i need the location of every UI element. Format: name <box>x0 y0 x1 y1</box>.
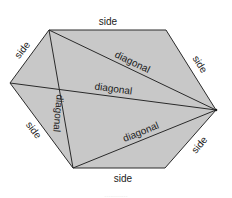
label-side-upper-right: side <box>190 53 209 75</box>
label-side-top: side <box>99 16 118 27</box>
figure-caption: ............ <box>104 191 127 198</box>
label-side-bottom: side <box>114 173 133 184</box>
vertex-dot-right <box>215 109 218 112</box>
hexagon-diagram: side side side side side side diagonal d… <box>0 0 232 198</box>
hexagon-shape <box>10 30 216 168</box>
